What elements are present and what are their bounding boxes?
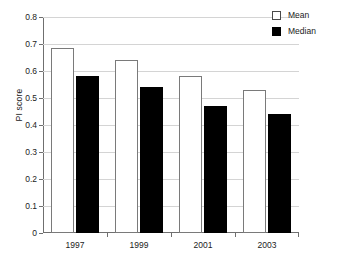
x-tick-mark xyxy=(235,233,236,237)
y-axis-title: PI score xyxy=(14,60,24,150)
bar-mean-1997 xyxy=(51,48,74,233)
legend-label: Mean xyxy=(288,10,309,20)
y-tick-label: 0.8 xyxy=(25,12,37,22)
legend-item-mean: Mean xyxy=(272,10,316,20)
bar-mean-2003 xyxy=(243,90,266,233)
x-tick-mark xyxy=(171,233,172,237)
plot-area: 00.10.20.30.40.50.60.70.8 19971999200120… xyxy=(43,17,299,233)
legend-label: Median xyxy=(288,26,316,36)
y-tick-label: 0.2 xyxy=(25,174,37,184)
y-tick-label: 0 xyxy=(32,228,37,238)
y-tick-mark xyxy=(39,179,43,180)
y-tick-mark xyxy=(39,71,43,72)
y-tick-mark xyxy=(39,152,43,153)
y-tick-label: 0.7 xyxy=(25,39,37,49)
legend-swatch-median xyxy=(272,27,281,36)
legend-swatch-mean xyxy=(272,11,281,20)
bar-mean-1999 xyxy=(115,60,138,233)
x-tick-mark xyxy=(298,233,299,237)
x-tick-label-2001: 2001 xyxy=(194,240,213,250)
y-tick-label: 0.3 xyxy=(25,147,37,157)
chart-legend: MeanMedian xyxy=(272,10,316,42)
legend-item-median: Median xyxy=(272,26,316,36)
bar-median-2001 xyxy=(204,106,227,233)
y-tick-mark xyxy=(39,44,43,45)
y-tick-mark xyxy=(39,206,43,207)
y-tick-label: 0.6 xyxy=(25,66,37,76)
y-tick-mark xyxy=(39,125,43,126)
bar-median-1999 xyxy=(140,87,163,233)
gridline xyxy=(43,17,299,18)
x-tick-label-1997: 1997 xyxy=(66,240,85,250)
gridline xyxy=(43,71,299,72)
gridline xyxy=(43,44,299,45)
y-tick-label: 0.4 xyxy=(25,120,37,130)
y-tick-mark xyxy=(39,98,43,99)
bar-median-1997 xyxy=(76,76,99,233)
y-tick-label: 0.5 xyxy=(25,93,37,103)
bar-chart-figure: PI score 00.10.20.30.40.50.60.70.8 19971… xyxy=(0,0,351,255)
y-tick-mark xyxy=(39,233,43,234)
y-tick-label: 0.1 xyxy=(25,201,37,211)
y-tick-mark xyxy=(39,17,43,18)
x-tick-label-2003: 2003 xyxy=(258,240,277,250)
bar-median-2003 xyxy=(268,114,291,233)
x-tick-label-1999: 1999 xyxy=(130,240,149,250)
x-tick-mark xyxy=(107,233,108,237)
bar-mean-2001 xyxy=(179,76,202,233)
